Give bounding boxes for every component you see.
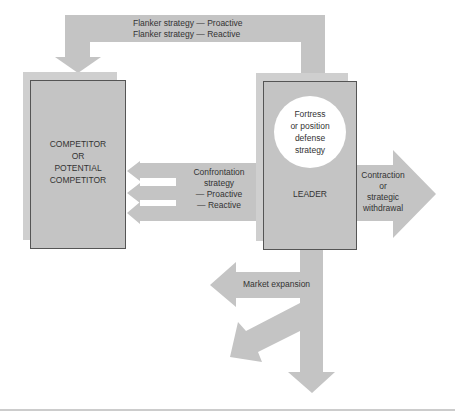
contraction-line-3: strategic (358, 192, 408, 203)
fortress-line-4: strategy (274, 144, 346, 156)
confrontation-line-3: — Proactive (186, 189, 252, 200)
contraction-line-4: withdrawal (358, 203, 408, 214)
leader-label: LEADER (263, 189, 357, 200)
fortress-label: Fortress or position defense strategy (274, 108, 346, 156)
competitor-label: COMPETITOR OR POTENTIAL COMPETITOR (30, 138, 126, 186)
flanker-line-1: Flanker strategy — Proactive (133, 18, 303, 29)
contraction-line-1: Contraction (358, 170, 408, 181)
confrontation-line-4: — Reactive (186, 200, 252, 211)
market-expansion-label: Market expansion (243, 279, 323, 290)
fortress-line-3: defense (274, 132, 346, 144)
flanker-label: Flanker strategy — Proactive Flanker str… (133, 18, 303, 40)
confrontation-line-1: Confrontation (186, 167, 252, 178)
competitor-line-2: OR (30, 150, 126, 162)
competitor-line-1: COMPETITOR (30, 138, 126, 150)
fortress-line-1: Fortress (274, 108, 346, 120)
competitor-line-4: COMPETITOR (30, 174, 126, 186)
competitor-line-3: POTENTIAL (30, 162, 126, 174)
confrontation-label: Confrontation strategy — Proactive — Rea… (186, 167, 252, 211)
fortress-line-2: or position (274, 120, 346, 132)
market-expansion-arrows (210, 245, 335, 393)
contraction-label: Contraction or strategic withdrawal (358, 170, 408, 214)
flanker-line-2: Flanker strategy — Reactive (133, 29, 303, 40)
contraction-line-2: or (358, 181, 408, 192)
confrontation-line-2: strategy (186, 178, 252, 189)
